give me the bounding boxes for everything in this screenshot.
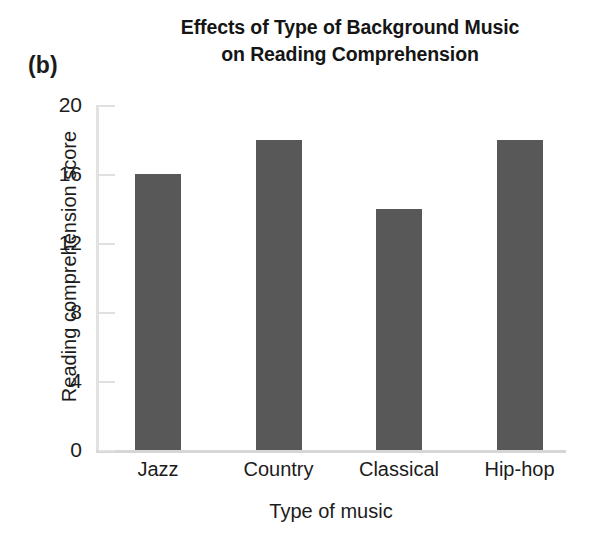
y-tick-mark <box>98 381 115 383</box>
chart-title: Effects of Type of Background Music on R… <box>140 14 560 68</box>
x-category-label-classical: Classical <box>334 458 464 481</box>
y-tick-label: 0 <box>70 438 82 462</box>
x-category-label-jazz: Jazz <box>93 458 223 481</box>
bar-hip-hop <box>497 140 543 451</box>
y-tick-mark <box>98 105 115 107</box>
y-tick-mark <box>98 174 115 176</box>
y-tick-mark <box>98 450 115 452</box>
x-category-label-hip-hop: Hip-hop <box>455 458 585 481</box>
chart-page: { "panel": { "letter": "(b)" }, "title":… <box>0 0 599 547</box>
x-axis-line <box>96 450 566 453</box>
y-tick-mark <box>98 312 115 314</box>
bar-jazz <box>135 174 181 450</box>
chart-title-line-2: on Reading Comprehension <box>140 41 560 68</box>
bar-classical <box>376 209 422 451</box>
y-axis-title: Reading comprehension score <box>58 102 81 432</box>
bar-country <box>256 140 302 451</box>
plot-area: 048121620 <box>96 105 566 450</box>
x-axis-title: Type of music <box>96 500 566 523</box>
y-tick-mark <box>98 243 115 245</box>
chart-title-line-1: Effects of Type of Background Music <box>140 14 560 41</box>
panel-letter: (b) <box>28 52 58 79</box>
y-axis-line <box>96 105 99 450</box>
x-category-label-country: Country <box>214 458 344 481</box>
